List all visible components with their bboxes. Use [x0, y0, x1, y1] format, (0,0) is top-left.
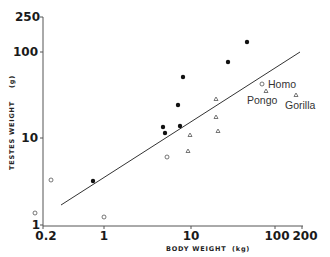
- scatter-chart: 250 100 10 1 0.2 1 10 100 200 BODY WEIGH…: [0, 0, 330, 257]
- x-tick-label: 100: [264, 229, 289, 243]
- regression-line: [61, 52, 300, 205]
- annotation-gorilla: Gorilla: [285, 99, 316, 111]
- x-tick-label: 1: [100, 229, 108, 243]
- annotation-homo: Homo: [268, 78, 296, 90]
- x-tick-label: 10: [183, 229, 200, 243]
- y-tick-label: 250: [15, 10, 40, 24]
- series-open-triangles: [186, 89, 298, 153]
- x-axis-label: BODY WEIGHT: [166, 245, 226, 253]
- x-tick-label: 200: [292, 229, 317, 243]
- annotation-pongo: Pongo: [247, 94, 278, 106]
- y-axis-label: TESTES WEIGHT: [8, 101, 16, 170]
- series-filled-circles: [91, 40, 249, 183]
- series-open-circles: [33, 82, 264, 219]
- x-axis-unit: (kg): [232, 245, 250, 253]
- y-tick-label: 10: [21, 131, 38, 145]
- x-ticks: 0.2 1 10 100 200: [35, 226, 317, 243]
- y-ticks: 250 100 10 1: [13, 10, 43, 232]
- y-tick-label: 100: [13, 45, 38, 59]
- y-axis-unit: (g): [8, 75, 16, 88]
- x-tick-label: 0.2: [35, 229, 56, 243]
